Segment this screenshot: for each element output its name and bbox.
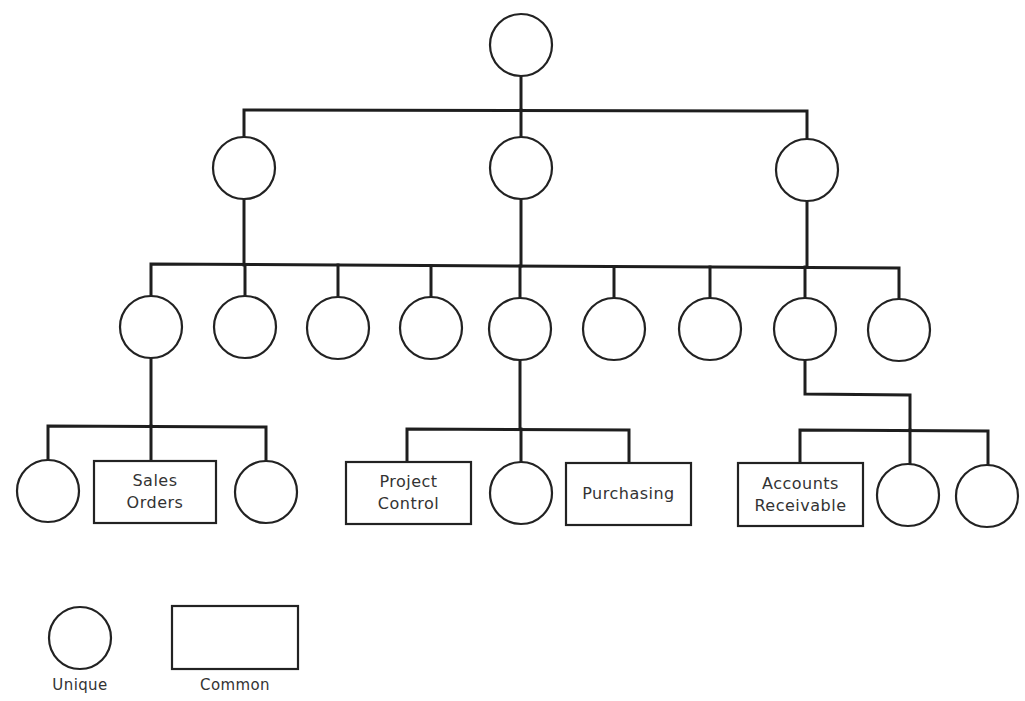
legend-label-unique: Unique [20,676,140,694]
connector-line [805,360,910,430]
unique-node [774,298,836,360]
common-node [346,462,471,524]
unique-node [583,298,645,360]
unique-node [489,298,551,360]
unique-node [235,461,297,523]
connector-line [48,426,266,461]
unique-node [877,464,939,526]
unique-node [307,297,369,359]
connector-line [151,264,899,299]
hierarchy-diagram [0,0,1025,701]
unique-node [214,296,276,358]
unique-node [679,298,741,360]
common-node [738,463,863,526]
legend-rect-icon [172,606,298,669]
unique-node [400,297,462,359]
unique-node [17,460,79,522]
legend-shapes [49,606,298,669]
legend-label-common: Common [175,676,295,694]
connector-lines [48,76,988,465]
common-node [94,461,216,523]
common-node [566,463,691,525]
unique-node [120,296,182,358]
unique-node [956,465,1018,527]
connector-line [800,430,988,465]
connector-line [407,429,629,463]
unique-node [490,137,552,199]
unique-node [776,139,838,201]
legend-circle-icon [49,607,111,669]
tree-nodes [17,14,1018,527]
unique-node [490,462,552,524]
unique-node [868,299,930,361]
connector-line [244,110,807,139]
unique-node [490,14,552,76]
unique-node [213,137,275,199]
